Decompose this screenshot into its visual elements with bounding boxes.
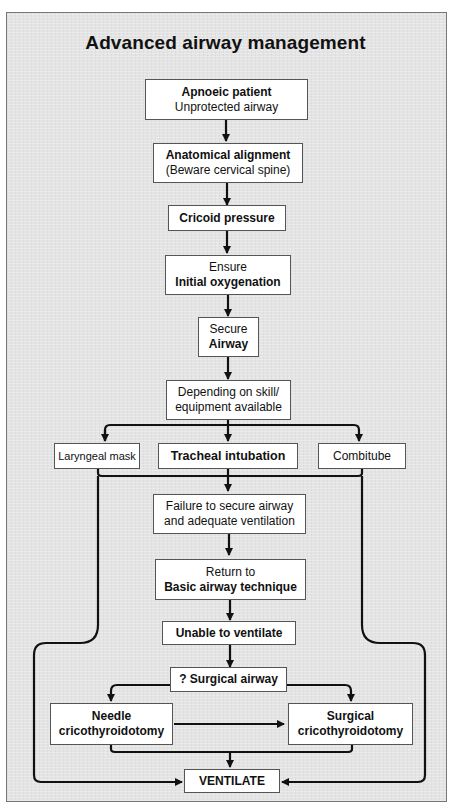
node-return-basic-airway: Return to Basic airway technique xyxy=(155,559,306,600)
node-label: Combitube xyxy=(333,449,391,464)
node-label: Laryngeal mask xyxy=(58,449,136,464)
node-sublabel: Return to xyxy=(206,565,255,580)
node-failure-to-secure: Failure to secure airway and adequate ve… xyxy=(153,494,306,534)
node-sublabel: Secure xyxy=(209,322,247,337)
node-label: Needle xyxy=(92,709,131,724)
node-needle-cricothyroidotomy: Needle cricothyroidotomy xyxy=(50,703,173,745)
node-label: Depending on skill/ xyxy=(178,385,279,400)
node-label: Cricoid pressure xyxy=(179,211,274,226)
node-combitube: Combitube xyxy=(318,443,406,469)
node-label: Apnoeic patient xyxy=(181,85,271,100)
node-label: Airway xyxy=(209,337,248,352)
node-apnoeic-patient: Apnoeic patient Unprotected airway xyxy=(145,79,308,120)
node-initial-oxygenation: Ensure Initial oxygenation xyxy=(165,255,291,295)
node-label: Tracheal intubation xyxy=(171,449,286,464)
node-sublabel: (Beware cervical spine) xyxy=(166,163,291,178)
node-label: Unable to ventilate xyxy=(176,626,283,641)
node-cricoid-pressure: Cricoid pressure xyxy=(168,205,286,231)
node-label: Basic airway technique xyxy=(164,580,297,595)
node-secure-airway: Secure Airway xyxy=(198,317,259,357)
node-sublabel: Ensure xyxy=(209,260,247,275)
node-depending-on-skill: Depending on skill/ equipment available xyxy=(166,380,291,420)
node-unable-to-ventilate: Unable to ventilate xyxy=(162,621,296,645)
node-sublabel: and adequate ventilation xyxy=(164,514,295,529)
node-surgical-cricothyroidotomy: Surgical cricothyroidotomy xyxy=(288,703,413,745)
node-laryngeal-mask: Laryngeal mask xyxy=(54,443,140,469)
node-sublabel: equipment available xyxy=(175,400,282,415)
node-ventilate: VENTILATE xyxy=(184,769,280,793)
node-label: ? Surgical airway xyxy=(179,672,278,687)
node-label: Initial oxygenation xyxy=(175,275,280,290)
node-label: Anatomical alignment xyxy=(166,148,291,163)
node-label: VENTILATE xyxy=(199,774,265,789)
node-anatomical-alignment: Anatomical alignment (Beware cervical sp… xyxy=(153,143,303,183)
node-sublabel: cricothyroidotomy xyxy=(298,724,403,739)
node-tracheal-intubation: Tracheal intubation xyxy=(158,443,298,469)
node-label: Surgical xyxy=(327,709,374,724)
node-label: Failure to secure airway xyxy=(166,499,293,514)
node-sublabel: cricothyroidotomy xyxy=(59,724,164,739)
node-surgical-airway-question: ? Surgical airway xyxy=(170,667,287,692)
node-sublabel: Unprotected airway xyxy=(175,100,278,115)
